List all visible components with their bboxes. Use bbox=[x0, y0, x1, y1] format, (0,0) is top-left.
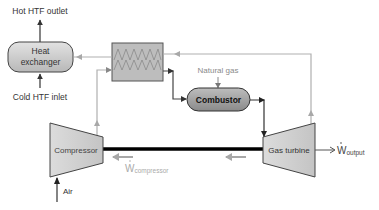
combustor-in-arrow-head bbox=[181, 96, 187, 102]
natural-gas-label: Natural gas bbox=[198, 66, 239, 75]
w-compressor-label: Wcompressor bbox=[125, 163, 169, 175]
air-label: Air bbox=[63, 187, 73, 196]
gas-turbine-node: Gas turbine bbox=[263, 123, 315, 177]
hot-htf-outlet-label: Hot HTF outlet bbox=[12, 6, 68, 16]
compressor-label: Compressor bbox=[54, 146, 98, 155]
w-output-dot bbox=[340, 142, 342, 144]
exhaust-arrow-up-head bbox=[308, 110, 314, 116]
recuperator-node bbox=[112, 43, 163, 81]
recuperator-in-arrow-head bbox=[106, 67, 112, 73]
w-compressor-sub: compressor bbox=[134, 167, 169, 175]
w-output-sub: output bbox=[346, 149, 364, 157]
exhaust-arrow-head-1 bbox=[174, 51, 180, 57]
recuperator-to-combustor-line bbox=[163, 71, 186, 99]
natural-gas-arrow-head bbox=[215, 83, 221, 88]
w-output-label: Woutput bbox=[337, 145, 365, 157]
compressor-to-recuperator-line bbox=[97, 70, 112, 138]
gas-turbine-label: Gas turbine bbox=[268, 146, 310, 155]
cold-htf-inlet-label: Cold HTF inlet bbox=[13, 92, 68, 102]
compressor-up-arrow-head bbox=[94, 120, 100, 126]
w-turbine-arrow-head bbox=[225, 153, 232, 161]
heat-exchanger-label-line1: Heat bbox=[32, 46, 51, 56]
combustor-node: Combustor bbox=[187, 88, 250, 111]
compressor-node: Compressor bbox=[50, 123, 103, 177]
heat-exchanger-label-line2: exchanger bbox=[21, 57, 61, 67]
air-arrow-head bbox=[54, 177, 60, 184]
heat-exchanger-node: Heat exchanger bbox=[8, 42, 73, 72]
gas-turbine-diagram: Hot HTF outlet Heat exchanger Cold HTF i… bbox=[0, 0, 379, 210]
combustor-label: Combustor bbox=[196, 95, 242, 105]
w-compressor-dot bbox=[129, 160, 131, 162]
recuperator-to-hx-arrow-head bbox=[76, 54, 82, 60]
w-compressor-arrow-head bbox=[112, 153, 119, 161]
